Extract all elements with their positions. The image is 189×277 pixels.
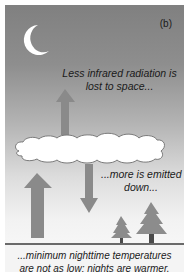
large-up-arrow-icon: [24, 173, 52, 238]
caption-top: Less infrared radiation is lost to space…: [57, 67, 182, 93]
caption-top-line-1: Less infrared radiation is: [57, 67, 182, 80]
crescent-moon-icon: [24, 25, 49, 55]
small-tree-icon: [111, 216, 132, 243]
caption-bottom-line-2: are not as low: nights are warmer.: [5, 262, 184, 272]
cloud-icon: [16, 133, 165, 163]
caption-bottom: ...minimum nighttime temperatures are no…: [5, 249, 184, 272]
caption-middle-line-2: down...: [101, 181, 181, 194]
large-tree-icon: [136, 202, 167, 243]
diagram-frame: (b) Less infrared radiation is lost to s…: [5, 5, 184, 272]
caption-middle: ...more is emitted down...: [101, 168, 181, 194]
down-arrow-icon: [80, 164, 98, 213]
small-up-arrow-icon: [56, 89, 75, 135]
caption-bottom-line-1: ...minimum nighttime temperatures: [5, 249, 184, 262]
caption-middle-line-1: ...more is emitted: [101, 168, 181, 181]
caption-top-line-2: lost to space...: [57, 80, 182, 93]
diagram-artwork: [5, 5, 184, 272]
ground-line: [5, 243, 184, 245]
panel-label: (b): [160, 18, 172, 29]
